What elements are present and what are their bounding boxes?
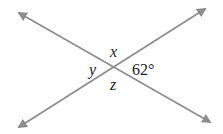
intersecting-lines-diagram: x y z 62° bbox=[0, 0, 223, 134]
angle-label-62: 62° bbox=[132, 61, 154, 78]
angle-label-y: y bbox=[87, 61, 97, 79]
angle-label-x: x bbox=[109, 43, 117, 60]
line-2 bbox=[19, 9, 205, 127]
angle-label-z: z bbox=[109, 76, 117, 93]
line-1 bbox=[19, 13, 210, 122]
